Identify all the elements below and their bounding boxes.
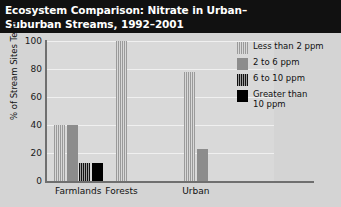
chart-figure: Ecosystem Comparison: Nitrate in Urban– … [0, 0, 341, 207]
x-axis-category-label: Urban [156, 186, 236, 196]
chart-legend: Less than 2 ppm2 to 6 ppm6 to 10 ppmGrea… [237, 41, 341, 112]
bar [54, 125, 65, 181]
legend-swatch-icon [237, 90, 248, 102]
y-axis-tick-labels: 020406080100 [12, 41, 42, 181]
legend-swatch-icon [237, 58, 248, 70]
legend-item-label: Greater than10 ppm [253, 89, 307, 109]
legend-swatch-icon [237, 74, 248, 86]
gridline [46, 153, 274, 154]
y-axis-tick-label: 60 [16, 93, 42, 102]
y-axis-tick-label: 100 [16, 37, 42, 46]
x-axis-line [45, 181, 314, 183]
legend-item[interactable]: Less than 2 ppm [237, 41, 341, 54]
bar [92, 163, 103, 181]
legend-item-label: 2 to 6 ppm [253, 57, 300, 67]
legend-item[interactable]: 6 to 10 ppm [237, 73, 341, 86]
gridline [46, 125, 274, 126]
bar [79, 163, 90, 181]
y-axis-line [45, 40, 47, 182]
bar [116, 41, 127, 181]
y-axis-tick-label: 40 [16, 121, 42, 130]
page-title-line-1: Ecosystem Comparison: Nitrate in Urban– [5, 3, 341, 17]
bar [184, 72, 195, 181]
page-title-line-2: Suburban Streams, 1992–2001 [5, 17, 341, 31]
x-axis-category-label: Forests [82, 186, 162, 196]
legend-item[interactable]: Greater than10 ppm [237, 89, 341, 109]
legend-item-label: Less than 2 ppm [253, 41, 324, 51]
legend-item-label: 6 to 10 ppm [253, 73, 305, 83]
legend-item[interactable]: 2 to 6 ppm [237, 57, 341, 70]
chart-title-bar: Ecosystem Comparison: Nitrate in Urban– … [0, 0, 341, 33]
bar [197, 149, 208, 181]
y-axis-tick-label: 0 [16, 177, 42, 186]
y-axis-tick-label: 20 [16, 149, 42, 158]
y-axis-tick-label: 80 [16, 65, 42, 74]
legend-swatch-icon [237, 42, 248, 54]
bar [67, 125, 78, 181]
